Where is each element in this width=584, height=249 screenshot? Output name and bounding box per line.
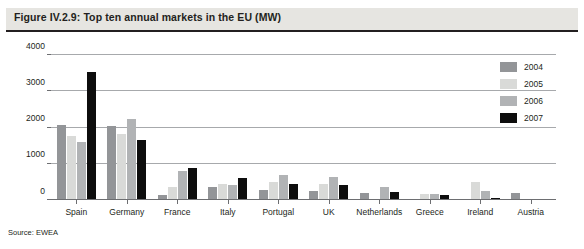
legend-item-label: 2007 xyxy=(524,113,543,123)
legend-item[interactable]: 2004 xyxy=(500,60,574,73)
x-axis-tick-mark xyxy=(76,200,77,204)
x-axis-tick-label: Spain xyxy=(65,207,87,217)
y-axis-tick-label: 4000 xyxy=(26,41,45,51)
x-axis-tick-mark xyxy=(379,200,380,204)
x-axis-tick-mark xyxy=(531,200,532,204)
legend-item-label: 2005 xyxy=(524,79,543,89)
bar-group: France xyxy=(152,55,203,200)
bar-group: UK xyxy=(304,55,355,200)
x-axis-tick-mark xyxy=(480,200,481,204)
x-axis-tick-mark xyxy=(430,200,431,204)
legend-swatch-icon xyxy=(500,79,517,89)
x-axis-tick-mark xyxy=(127,200,128,204)
x-axis-tick-mark xyxy=(228,200,229,204)
bar xyxy=(168,187,177,200)
legend-item-label: 2006 xyxy=(524,96,543,106)
y-axis-tick-label: 1000 xyxy=(26,149,45,159)
bar xyxy=(77,142,86,200)
x-axis-tick-mark xyxy=(329,200,330,204)
bar xyxy=(289,184,298,200)
bar-group: Germany xyxy=(102,55,153,200)
legend-swatch-icon xyxy=(500,96,517,106)
x-axis-tick-mark xyxy=(177,200,178,204)
bar-group: Ireland xyxy=(455,55,506,200)
bar xyxy=(238,178,247,200)
bar xyxy=(137,140,146,200)
legend-item[interactable]: 2007 xyxy=(500,111,574,124)
bar xyxy=(319,184,328,200)
bar xyxy=(107,126,116,200)
bar xyxy=(117,134,126,200)
bar-group: Spain xyxy=(51,55,102,200)
legend-item-label: 2004 xyxy=(524,62,543,72)
bar-group: Portugal xyxy=(253,55,304,200)
x-axis-tick-label: Greece xyxy=(416,207,444,217)
bar xyxy=(218,184,227,200)
bar xyxy=(471,182,480,200)
bar xyxy=(339,185,348,200)
legend-swatch-icon xyxy=(500,62,517,72)
x-axis-tick-label: Ireland xyxy=(467,207,493,217)
chart-legend: 2004200520062007 xyxy=(500,60,574,128)
source-note: Source: EWEA xyxy=(8,228,58,237)
x-axis-line xyxy=(51,199,556,200)
x-axis-tick-label: Italy xyxy=(220,207,236,217)
bar xyxy=(329,177,338,200)
bar xyxy=(188,168,197,200)
x-axis-tick-label: France xyxy=(164,207,190,217)
bar xyxy=(228,185,237,200)
y-axis-tick-label: 3000 xyxy=(26,77,45,87)
bar xyxy=(178,171,187,200)
bar xyxy=(87,72,96,200)
page-title: Figure IV.2.9: Top ten annual markets in… xyxy=(14,11,281,23)
x-axis-tick-label: Austria xyxy=(518,207,544,217)
bar xyxy=(67,136,76,200)
bar xyxy=(279,175,288,200)
legend-item[interactable]: 2005 xyxy=(500,77,574,90)
bar xyxy=(57,125,66,200)
bar-groups: SpainGermanyFranceItalyPortugalUKNetherl… xyxy=(51,55,556,200)
y-axis-tick-label: 2000 xyxy=(26,113,45,123)
plot-area: 01000200030004000 SpainGermanyFranceItal… xyxy=(51,55,556,200)
bar-group: Italy xyxy=(203,55,254,200)
figure-container: Figure IV.2.9: Top ten annual markets in… xyxy=(0,0,584,249)
bar xyxy=(127,119,136,200)
x-axis-tick-label: Netherlands xyxy=(356,207,402,217)
bar xyxy=(269,182,278,200)
legend-item[interactable]: 2006 xyxy=(500,94,574,107)
bar-group: Netherlands xyxy=(354,55,405,200)
x-axis-tick-mark xyxy=(278,200,279,204)
legend-swatch-icon xyxy=(500,113,517,123)
x-axis-tick-label: Germany xyxy=(109,207,144,217)
chart-panel: 01000200030004000 SpainGermanyFranceItal… xyxy=(6,32,578,217)
x-axis-tick-label: Portugal xyxy=(262,207,294,217)
y-axis-tick-label: 0 xyxy=(40,186,45,196)
x-axis-tick-label: UK xyxy=(323,207,335,217)
bar-group: Greece xyxy=(405,55,456,200)
